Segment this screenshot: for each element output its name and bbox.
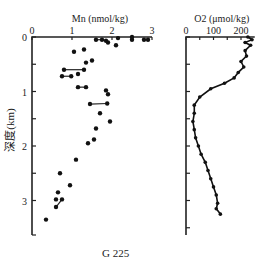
- o2-data-point: [197, 144, 201, 148]
- y-tick-label: 0: [22, 32, 27, 43]
- mn-data-point: [56, 190, 60, 194]
- o2-data-point: [198, 95, 202, 99]
- mn-x-tick-label: 1: [70, 25, 75, 36]
- mn-panel: 01230123Mn (nmol/kg): [22, 13, 155, 235]
- o2-data-point: [232, 76, 236, 80]
- o2-data-point: [214, 207, 218, 211]
- mn-x-tick-label: 3: [150, 25, 155, 36]
- o2-profile-line: [193, 37, 252, 214]
- o2-data-point: [246, 35, 250, 39]
- mn-data-point: [146, 38, 150, 42]
- o2-data-point: [243, 41, 247, 45]
- o2-data-point: [203, 161, 207, 165]
- mn-data-point: [106, 92, 110, 96]
- mn-data-point: [44, 217, 48, 221]
- mn-data-point: [82, 68, 86, 72]
- mn-data-point: [116, 36, 120, 40]
- mn-data-point: [104, 88, 108, 92]
- mn-data-point: [62, 68, 66, 72]
- mn-data-point: [98, 111, 102, 115]
- o2-data-point: [214, 193, 218, 197]
- o2-x-tick-label: 0: [184, 25, 189, 36]
- o2-data-point: [216, 201, 220, 205]
- o2-axis-title: O2 (μmol/kg): [194, 13, 249, 25]
- y-tick-label: 1: [22, 87, 27, 98]
- mn-data-point: [74, 157, 78, 161]
- mn-data-point: [76, 72, 80, 76]
- mn-data-point: [88, 102, 92, 106]
- mn-data-point: [94, 126, 98, 130]
- o2-data-point: [219, 212, 223, 216]
- y-tick-label: 2: [22, 141, 27, 152]
- mn-data-point: [54, 197, 58, 201]
- o2-data-point: [192, 128, 196, 132]
- o2-data-point: [245, 54, 249, 58]
- y-axis-label: 深度(km): [3, 108, 17, 152]
- o2-x-tick-label: 200: [234, 25, 249, 36]
- mn-data-point: [106, 40, 110, 44]
- o2-data-point: [243, 49, 247, 53]
- o2-data-point: [239, 60, 243, 64]
- mn-data-point: [114, 43, 118, 47]
- o2-data-point: [242, 65, 246, 69]
- mn-data-point: [58, 171, 62, 175]
- o2-data-point: [209, 87, 213, 91]
- o2-data-point: [236, 71, 240, 75]
- mn-data-point: [72, 50, 76, 54]
- o2-data-point: [209, 177, 213, 181]
- o2-data-point: [223, 82, 227, 86]
- mn-data-point: [60, 74, 64, 78]
- mn-data-point: [86, 141, 90, 145]
- mn-data-point: [94, 38, 98, 42]
- o2-data-point: [199, 152, 203, 156]
- mn-axis-title: Mn (nmol/kg): [72, 13, 128, 25]
- station-label: G 225: [102, 247, 130, 259]
- chart-figure: 01230123Mn (nmol/kg) 0100200O2 (μmol/kg)…: [0, 0, 273, 278]
- o2-data-point: [249, 43, 253, 47]
- o2-data-point: [206, 169, 210, 173]
- mn-data-point: [108, 119, 112, 123]
- mn-data-point: [68, 183, 72, 187]
- mn-data-point: [130, 38, 134, 42]
- mn-data-point: [69, 74, 73, 78]
- o2-data-point: [192, 103, 196, 107]
- mn-data-point: [100, 38, 104, 42]
- mn-data-point: [90, 58, 94, 62]
- mn-data-point: [105, 101, 109, 105]
- mn-data-point: [142, 38, 146, 42]
- o2-data-point: [194, 136, 198, 140]
- mn-data-point: [60, 197, 64, 201]
- mn-data-point: [54, 205, 58, 209]
- o2-data-point: [192, 112, 196, 116]
- mn-data-point: [92, 137, 96, 141]
- o2-data-point: [250, 38, 254, 42]
- mn-data-point: [84, 60, 88, 64]
- mn-data-point: [82, 47, 86, 51]
- mn-x-tick-label: 0: [30, 25, 35, 36]
- o2-panel: 0100200O2 (μmol/kg): [184, 13, 255, 235]
- mn-data-point: [76, 85, 80, 89]
- mn-data-point: [84, 85, 88, 89]
- o2-x-tick-label: 100: [206, 25, 221, 36]
- o2-data-point: [191, 120, 195, 124]
- o2-data-point: [212, 185, 216, 189]
- mn-x-tick-label: 2: [110, 25, 115, 36]
- y-tick-label: 3: [22, 196, 27, 207]
